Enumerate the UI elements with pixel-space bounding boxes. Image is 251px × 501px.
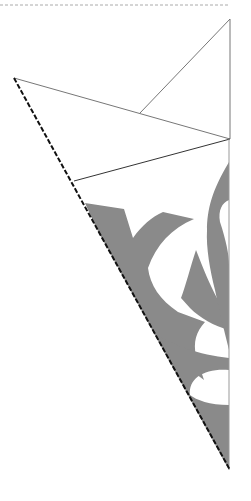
upper-flaps bbox=[14, 19, 230, 181]
snowflake-template-diagram bbox=[0, 0, 251, 501]
diagram-canvas bbox=[0, 0, 251, 501]
cutout-pattern bbox=[85, 162, 229, 470]
